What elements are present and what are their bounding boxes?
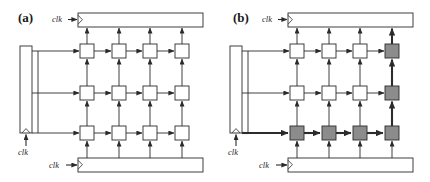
panel-a-cell-r1-c1 xyxy=(112,86,126,100)
panel-b-cell-r2-c0-shaded xyxy=(290,126,304,140)
panel-a-clk-top-label: clk xyxy=(52,14,62,24)
panel-b-top-register xyxy=(288,13,413,27)
panel-a-cell-r0-c3 xyxy=(175,44,189,58)
panel-b-cell-r1-c1 xyxy=(322,86,336,100)
panel-a-cell-r1-c3 xyxy=(175,86,189,100)
panel-a-label: (a) xyxy=(18,10,33,25)
panel-a-cell-r2-c0 xyxy=(80,126,94,140)
systolic-array-figure: (a) clk clk clk xyxy=(0,0,430,182)
panel-a-cell-r2-c3 xyxy=(175,126,189,140)
panel-a-cell-r0-c2 xyxy=(143,44,157,58)
panel-b-label: (b) xyxy=(233,10,249,25)
panel-a-top-register xyxy=(78,13,203,27)
panel-b-cell-r1-c2 xyxy=(353,86,367,100)
panel-a-cell-r2-c1 xyxy=(112,126,126,140)
panel-b-cell-r1-c3-shaded xyxy=(385,86,399,100)
panel-a-cell-r1-c2 xyxy=(143,86,157,100)
panel-a-clk-left-label: clk xyxy=(18,147,28,157)
panel-a-cell-r1-c0 xyxy=(80,86,94,100)
panel-b-left-register xyxy=(230,46,242,133)
panel-b-cell-r0-c3-shaded xyxy=(385,44,399,58)
panel-b-clk-top-label: clk xyxy=(262,14,272,24)
panel-a-cell-r0-c0 xyxy=(80,44,94,58)
panel-b-cell-r1-c0 xyxy=(290,86,304,100)
panel-b-cell-r0-c1 xyxy=(322,44,336,58)
panel-a-left-register xyxy=(20,46,32,133)
panel-b-cell-r0-c0 xyxy=(290,44,304,58)
panel-b-clk-left-label: clk xyxy=(228,147,238,157)
panel-b-cell-r2-c2-shaded xyxy=(353,126,367,140)
panel-a-cell-r0-c1 xyxy=(112,44,126,58)
panel-b-clk-bottom-label: clk xyxy=(259,160,269,170)
panel-a-bottom-register xyxy=(78,158,203,172)
panel-b-bottom-register xyxy=(288,158,413,172)
panel-b-cell-r0-c2 xyxy=(353,44,367,58)
panel-b-cell-r2-c1-shaded xyxy=(322,126,336,140)
panel-a-clk-bottom-label: clk xyxy=(49,160,59,170)
panel-b-cell-r2-c3-shaded xyxy=(385,126,399,140)
panel-a-cell-r2-c2 xyxy=(143,126,157,140)
